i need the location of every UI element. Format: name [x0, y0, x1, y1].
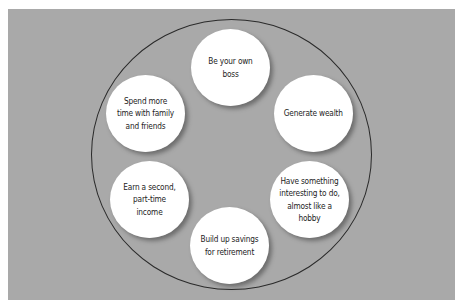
node-be-your-own-boss: Be your own boss [191, 29, 270, 106]
node-label: Have something interesting to do, almost… [276, 175, 344, 225]
node-label: Build up savings for retirement [196, 233, 264, 258]
node-label: Earn a second, part-time income [116, 181, 184, 219]
node-label: Generate wealth [281, 107, 347, 120]
node-label: Be your own boss [197, 55, 265, 80]
node-family-friends: Spend more time with family and friends [106, 75, 185, 152]
node-label: Spend more time with family and friends [112, 95, 180, 133]
node-generate-wealth: Generate wealth [274, 75, 353, 152]
node-savings-retirement: Build up savings for retirement [190, 207, 269, 284]
node-second-income: Earn a second, part-time income [110, 161, 189, 238]
node-interesting-hobby: Have something interesting to do, almost… [270, 161, 349, 238]
